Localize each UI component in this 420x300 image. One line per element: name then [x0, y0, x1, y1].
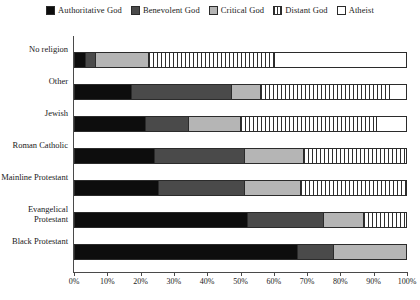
legend-swatch-distant-god-icon: [273, 6, 282, 15]
bar-row: Mainline Protestant: [74, 172, 407, 204]
bar-row: Roman Catholic: [74, 140, 407, 172]
x-tick-label: 60%: [266, 277, 281, 287]
bar-segment-benevolent-god: [85, 53, 95, 67]
x-tick: [107, 272, 108, 276]
x-tick: [274, 272, 275, 276]
stacked-bar: [74, 180, 407, 196]
bar-segment-authoritative-god: [75, 85, 131, 99]
legend-label-authoritative-god: Authoritative God: [58, 6, 122, 15]
bar-segment-critical-god: [244, 149, 304, 163]
bar-segment-distant-god: [148, 53, 274, 67]
bar-segment-benevolent-god: [145, 117, 188, 131]
legend-label-atheist: Atheist: [349, 6, 374, 15]
x-tick-label: 80%: [333, 277, 348, 287]
bar-row: Other: [74, 76, 407, 108]
x-tick: [141, 272, 142, 276]
bar-segment-benevolent-god: [297, 245, 333, 259]
x-tick-label: 0%: [69, 277, 80, 287]
legend-label-critical-god: Critical God: [221, 6, 264, 15]
category-label-evangelical-protestant: Evangelical Protestant: [0, 204, 68, 224]
category-label-black-protestant: Black Protestant: [0, 236, 68, 246]
x-tick: [241, 272, 242, 276]
bar-segment-authoritative-god: [75, 53, 85, 67]
stacked-bar: [74, 116, 407, 132]
bar-segment-critical-god: [244, 181, 300, 195]
stacked-bar: [74, 244, 407, 260]
bar-segment-authoritative-god: [75, 213, 247, 227]
category-label-other: Other: [0, 76, 68, 86]
x-tick-label: 100%: [398, 277, 417, 287]
legend-item-critical-god: Critical God: [209, 6, 264, 15]
category-label-mainline-protestant: Mainline Protestant: [0, 172, 68, 182]
legend-item-distant-god: Distant God: [273, 6, 327, 15]
x-tick-label: 90%: [366, 277, 381, 287]
legend-swatch-atheist-icon: [337, 6, 346, 15]
legend-label-distant-god: Distant God: [285, 6, 327, 15]
stacked-bar: [74, 84, 407, 100]
bar-segment-atheist: [389, 85, 406, 99]
bar-segment-authoritative-god: [75, 181, 158, 195]
stacked-bar: [74, 212, 407, 228]
legend-item-benevolent-god: Benevolent God: [131, 6, 200, 15]
x-tick: [74, 272, 75, 276]
x-tick-label: 10%: [100, 277, 115, 287]
bar-segment-critical-god: [188, 117, 241, 131]
bar-segment-benevolent-god: [131, 85, 230, 99]
bar-segment-distant-god: [303, 149, 406, 163]
bar-segment-atheist: [376, 117, 406, 131]
legend-swatch-critical-god-icon: [209, 6, 218, 15]
legend-item-atheist: Atheist: [337, 6, 374, 15]
category-label-jewish: Jewish: [0, 108, 68, 118]
x-tick-label: 40%: [200, 277, 215, 287]
stacked-bar-chart: Authoritative God Benevolent God Critica…: [0, 0, 420, 300]
bar-segment-distant-god: [260, 85, 389, 99]
stacked-bar: [74, 52, 407, 68]
bar-row: Black Protestant: [74, 236, 407, 268]
x-tick: [207, 272, 208, 276]
x-tick-label: 50%: [233, 277, 248, 287]
x-tick-label: 70%: [300, 277, 315, 287]
bar-segment-benevolent-god: [158, 181, 244, 195]
x-tick-label: 30%: [167, 277, 182, 287]
stacked-bar: [74, 148, 407, 164]
chart-legend: Authoritative God Benevolent God Critica…: [0, 6, 420, 15]
bar-segment-distant-god: [363, 213, 406, 227]
x-tick: [407, 272, 408, 276]
category-label-roman-catholic: Roman Catholic: [0, 140, 68, 150]
category-label-no-religion: No religion: [0, 44, 68, 54]
x-tick: [307, 272, 308, 276]
bar-row: No religion: [74, 44, 407, 76]
bar-segment-authoritative-god: [75, 117, 145, 131]
bar-row: Evangelical Protestant: [74, 204, 407, 236]
x-tick: [374, 272, 375, 276]
bar-segment-critical-god: [231, 85, 261, 99]
bar-segment-critical-god: [333, 245, 406, 259]
bar-row: Jewish: [74, 108, 407, 140]
bar-segment-distant-god: [300, 181, 406, 195]
plot-area: No religionOtherJewishRoman CatholicMain…: [74, 36, 407, 272]
legend-label-benevolent-god: Benevolent God: [143, 6, 200, 15]
bar-segment-authoritative-god: [75, 149, 154, 163]
bar-segment-benevolent-god: [247, 213, 323, 227]
legend-swatch-benevolent-god-icon: [131, 6, 140, 15]
bar-segment-distant-god: [240, 117, 376, 131]
x-tick: [340, 272, 341, 276]
bar-segment-atheist: [274, 53, 406, 67]
bar-segment-critical-god: [95, 53, 148, 67]
x-tick: [174, 272, 175, 276]
x-tick-label: 20%: [133, 277, 148, 287]
legend-item-authoritative-god: Authoritative God: [46, 6, 122, 15]
bar-segment-critical-god: [323, 213, 363, 227]
legend-swatch-authoritative-god-icon: [46, 6, 55, 15]
bar-segment-benevolent-god: [154, 149, 243, 163]
bar-segment-authoritative-god: [75, 245, 297, 259]
